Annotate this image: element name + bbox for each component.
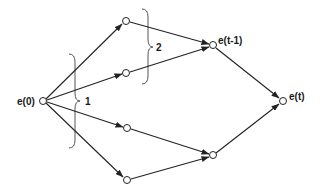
node-a4 (124, 177, 131, 184)
diagram-canvas: 1 2 e(0) e(t-1) e(t) (0, 0, 321, 194)
edge-a3-b2 (131, 129, 209, 154)
edge-a2-et1 (130, 47, 209, 72)
label-e0: e(0) (17, 96, 35, 107)
edge-a4-b2 (131, 157, 209, 179)
label-et: e(t) (289, 91, 305, 102)
node-b2 (210, 152, 217, 159)
nodes (40, 18, 287, 184)
brace-layer-2: 2 (142, 9, 162, 84)
node-e0 (40, 98, 47, 105)
node-a1 (123, 18, 130, 25)
brace-1-label: 1 (85, 96, 91, 107)
edge-a1-et1 (130, 22, 209, 44)
brace-layer-1: 1 (69, 54, 91, 148)
node-a2 (123, 70, 130, 77)
edge-et1-et (216, 48, 279, 98)
node-et1 (210, 42, 217, 49)
label-et1: e(t-1) (218, 35, 242, 46)
brace-2-label: 2 (156, 42, 162, 53)
node-et (280, 98, 287, 105)
edge-b2-et (216, 104, 279, 153)
brace-2-icon (142, 9, 153, 84)
node-a3 (124, 125, 131, 132)
edges (46, 22, 279, 179)
